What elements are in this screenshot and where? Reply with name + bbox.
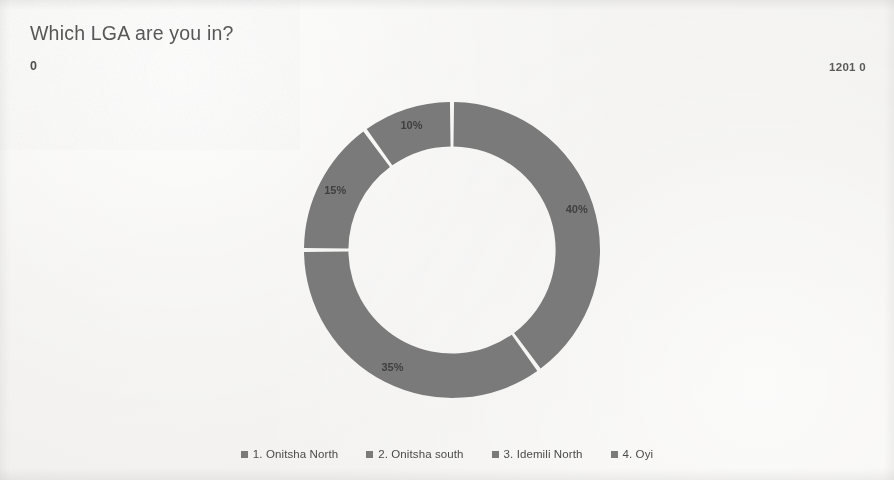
legend-item[interactable]: 4. Oyi (611, 448, 654, 460)
donut-slice-label: 35% (381, 361, 403, 373)
legend-item[interactable]: 2. Onitsha south (366, 448, 463, 460)
legend-swatch-icon (611, 451, 618, 458)
donut-slice[interactable] (304, 251, 537, 398)
chart-legend: 1. Onitsha North2. Onitsha south3. Idemi… (0, 448, 894, 460)
legend-item-label: 1. Onitsha North (253, 448, 338, 460)
donut-chart-svg: 40%35%15%10% (296, 94, 608, 406)
legend-item[interactable]: 3. Idemili North (492, 448, 583, 460)
donut-chart: 40%35%15%10% (0, 0, 894, 480)
legend-item-label: 3. Idemili North (504, 448, 583, 460)
donut-slice-label: 40% (566, 203, 588, 215)
donut-slice[interactable] (304, 131, 390, 248)
donut-slices (304, 102, 600, 398)
legend-swatch-icon (366, 451, 373, 458)
donut-slice[interactable] (453, 102, 600, 368)
donut-slice-label: 15% (324, 184, 346, 196)
legend-item-label: 4. Oyi (623, 448, 654, 460)
donut-slice-label: 10% (400, 119, 422, 131)
legend-swatch-icon (241, 451, 248, 458)
legend-item-label: 2. Onitsha south (378, 448, 463, 460)
legend-item[interactable]: 1. Onitsha North (241, 448, 338, 460)
slide-canvas: Which LGA are you in? 0 1201 0 40%35%15%… (0, 0, 894, 480)
legend-swatch-icon (492, 451, 499, 458)
